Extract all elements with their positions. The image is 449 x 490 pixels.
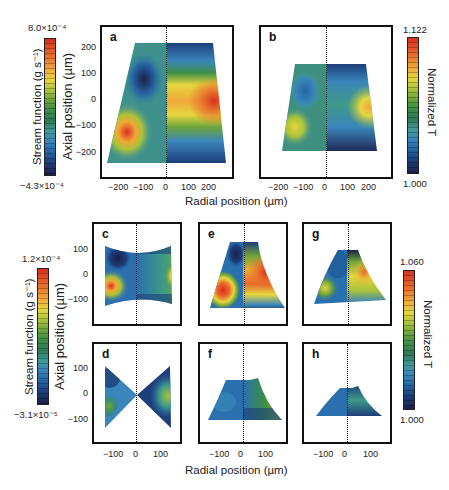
panel-d: d xyxy=(92,342,182,444)
panel-a-plot xyxy=(102,27,232,177)
ytick: 100 xyxy=(58,244,88,254)
xtick: −100 xyxy=(133,182,153,192)
xtick: 0 xyxy=(322,182,327,192)
ytick: −100 xyxy=(66,120,96,130)
xtick: 0 xyxy=(342,449,347,459)
colorbar-bottom-right-title: Normalized T xyxy=(422,300,434,368)
panel-label: g xyxy=(312,227,319,241)
xtick: 100 xyxy=(181,182,196,192)
panel-label: a xyxy=(110,30,117,44)
xtick: −200 xyxy=(108,182,128,192)
xtick: 100 xyxy=(258,449,273,459)
panel-f: f xyxy=(198,342,288,444)
panel-label: b xyxy=(269,30,276,44)
ytick: −200 xyxy=(66,147,96,157)
colorbar-bottom-left-max: 1.2×10⁻⁴ xyxy=(22,253,60,264)
axis-zero-line xyxy=(243,344,244,442)
colorbar-top-left xyxy=(44,38,56,176)
panel-g: g xyxy=(302,222,392,326)
panel-label: d xyxy=(102,347,109,361)
xtick: 100 xyxy=(153,449,168,459)
axis-zero-line xyxy=(136,344,137,442)
x-axis-label-top: Radial position (µm) xyxy=(185,195,288,207)
colorbar-top-right xyxy=(407,37,419,174)
ytick: 0 xyxy=(58,269,88,279)
xtick: 200 xyxy=(201,182,216,192)
panel-c: c xyxy=(92,222,182,326)
xtick: 0 xyxy=(133,449,138,459)
panel-label: h xyxy=(312,347,319,361)
colorbar-bottom-left xyxy=(37,268,49,405)
ytick: −100 xyxy=(58,294,88,304)
colorbar-bottom-right-min: 1.000 xyxy=(400,414,424,425)
panel-h: h xyxy=(302,342,392,444)
colorbar-bottom-right-max: 1.060 xyxy=(400,256,424,267)
panel-e: e xyxy=(198,222,288,326)
panel-label: c xyxy=(102,227,109,241)
xtick: 100 xyxy=(340,182,355,192)
xtick: −200 xyxy=(268,182,288,192)
panel-label: f xyxy=(208,347,212,361)
ytick: 200 xyxy=(66,42,96,52)
axis-zero-line xyxy=(348,224,349,324)
xtick: 200 xyxy=(361,182,376,192)
colorbar-bottom-left-min: −3.1×10⁻⁵ xyxy=(14,409,58,420)
axis-zero-line xyxy=(347,344,348,442)
panel-b: b xyxy=(259,25,393,179)
axis-zero-line xyxy=(166,27,167,177)
colorbar-top-right-min: 1.000 xyxy=(403,178,427,189)
ytick: 0 xyxy=(66,94,96,104)
axis-zero-line xyxy=(326,27,327,177)
xtick: −100 xyxy=(209,449,229,459)
ytick: 0 xyxy=(58,388,88,398)
axis-zero-line xyxy=(244,224,245,324)
colorbar-top-right-max: 1.122 xyxy=(403,24,427,35)
ytick: −100 xyxy=(58,414,88,424)
xtick: 0 xyxy=(163,182,168,192)
colorbar-top-right-title: Normalized T xyxy=(426,68,438,136)
panel-label: e xyxy=(208,227,215,241)
ytick: 100 xyxy=(66,68,96,78)
x-axis-label-bottom: Radial position (µm) xyxy=(185,464,288,476)
xtick: −100 xyxy=(103,449,123,459)
xtick: −100 xyxy=(293,182,313,192)
colorbar-bottom-left-title: Stream function (g s⁻¹) xyxy=(22,278,36,395)
panel-a: a xyxy=(100,25,234,179)
xtick: −100 xyxy=(313,449,333,459)
ytick: 100 xyxy=(58,363,88,373)
xtick: 0 xyxy=(238,449,243,459)
colorbar-bottom-right xyxy=(403,270,415,410)
colorbar-top-left-max: 8.0×10⁻⁴ xyxy=(28,22,66,33)
colorbar-top-left-title: Stream function (g s⁻¹) xyxy=(30,48,44,165)
axis-zero-line xyxy=(136,224,137,324)
xtick: 100 xyxy=(363,449,378,459)
colorbar-top-left-min: −4.3×10⁻⁴ xyxy=(20,180,64,191)
